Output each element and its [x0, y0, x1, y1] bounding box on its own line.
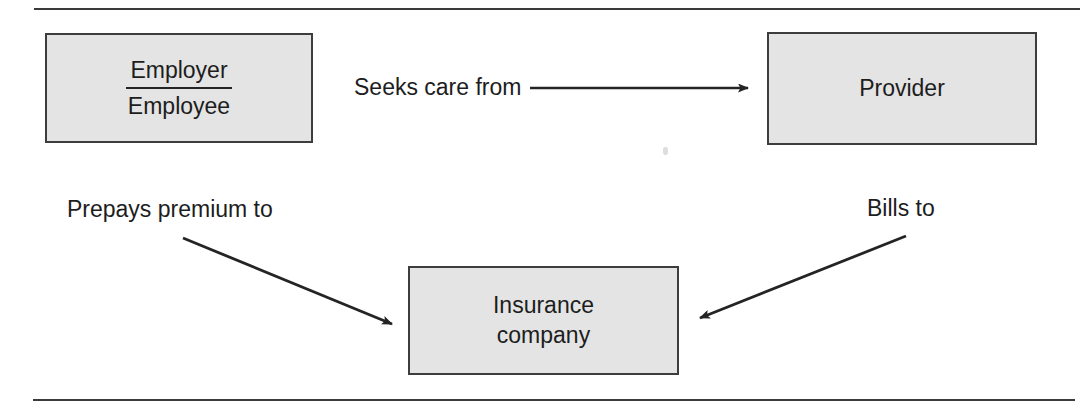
diagram-canvas: Employer Employee Provider Insurance com… — [0, 0, 1081, 419]
fraction-stack: Employer Employee — [124, 56, 234, 120]
fraction-bar — [126, 87, 232, 89]
node-insurance-company[interactable]: Insurance company — [408, 266, 679, 375]
edge-label-prepays-premium-to: Prepays premium to — [67, 198, 273, 221]
node-insurance-label-line1: Insurance — [493, 291, 594, 320]
top-divider-rule — [34, 8, 1080, 10]
scan-artifact-speck — [663, 147, 668, 155]
node-provider[interactable]: Provider — [767, 32, 1037, 145]
node-provider-label: Provider — [859, 74, 945, 103]
node-employer-employee[interactable]: Employer Employee — [45, 33, 313, 143]
bottom-divider-rule — [33, 399, 1075, 401]
arrow-prepays-premium-to — [183, 238, 392, 324]
edge-label-bills-to: Bills to — [867, 197, 935, 220]
arrow-bills-to — [700, 236, 906, 318]
edge-label-seeks-care-from: Seeks care from — [354, 76, 521, 99]
node-employee-label: Employee — [128, 92, 230, 120]
node-insurance-label-line2: company — [497, 321, 590, 350]
node-employer-label: Employer — [130, 56, 227, 84]
